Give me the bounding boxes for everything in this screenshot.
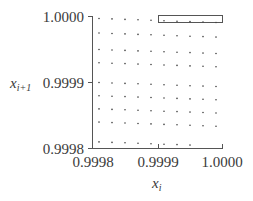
scatter-points: [98, 18, 217, 146]
scatter-point: [150, 110, 152, 112]
x-tick-label-left: 0.9998: [72, 154, 113, 170]
scatter-point: [215, 99, 217, 101]
x-tick-label-right: 1.0000: [201, 154, 242, 170]
scatter-point: [189, 144, 191, 146]
scatter-point: [176, 35, 178, 37]
scatter-point: [176, 20, 178, 22]
scatter-point: [111, 122, 113, 124]
scatter-point: [150, 123, 152, 125]
scatter-point: [111, 95, 113, 97]
scatter-point: [163, 84, 165, 86]
scatter-point: [163, 64, 165, 66]
scatter-point: [98, 141, 100, 143]
scatter-point: [215, 66, 217, 68]
scatter-point: [137, 50, 139, 52]
scatter-point: [124, 109, 126, 111]
scatter-point: [150, 34, 152, 36]
scatter-point: [124, 63, 126, 65]
scatter-point: [124, 50, 126, 52]
scatter-point: [150, 97, 152, 99]
y-axis-title: xi+1: [9, 75, 31, 93]
scatter-point: [98, 18, 100, 20]
scatter-point: [98, 62, 100, 64]
scatter-point: [98, 95, 100, 97]
scatter-point: [163, 97, 165, 99]
scatter-point: [202, 52, 204, 54]
scatter-point: [124, 33, 126, 35]
scatter-point: [176, 144, 178, 146]
scatter-point: [98, 49, 100, 51]
scatter-point: [150, 143, 152, 145]
scatter-point: [163, 143, 165, 145]
scatter-point: [98, 121, 100, 123]
scatter-point: [111, 82, 113, 84]
scatter-point: [176, 51, 178, 53]
scatter-point: [202, 125, 204, 127]
scatter-point: [163, 35, 165, 37]
scatter-point: [150, 64, 152, 66]
scatter-point: [163, 20, 165, 22]
scatter-point: [176, 84, 178, 86]
scatter-point: [189, 65, 191, 67]
scatter-point: [137, 96, 139, 98]
scatter-point: [189, 21, 191, 23]
scatter-point: [176, 98, 178, 100]
y-axis-title-sub: i+1: [17, 82, 32, 93]
scatter-point: [163, 124, 165, 126]
scatter-point: [98, 82, 100, 84]
scatter-point: [189, 85, 191, 87]
scatter-point: [202, 21, 204, 23]
scatter-point: [111, 62, 113, 64]
scatter-point: [163, 51, 165, 53]
y-tick-label-top: 1.0000: [43, 9, 84, 25]
scatter-point: [189, 52, 191, 54]
scatter-point: [163, 110, 165, 112]
scatter-point: [215, 125, 217, 127]
scatter-point: [124, 122, 126, 124]
scatter-point: [150, 84, 152, 86]
scatter-point: [137, 19, 139, 21]
scatter-point: [111, 18, 113, 20]
scatter-point: [202, 99, 204, 101]
scatter-point: [189, 125, 191, 127]
scatter-point: [189, 111, 191, 113]
scatter-point: [215, 53, 217, 55]
scatter-point: [189, 35, 191, 37]
scatter-point: [176, 65, 178, 67]
scatter-point: [124, 96, 126, 98]
scatter-point: [189, 98, 191, 100]
scatter-point: [137, 123, 139, 125]
lattice-scatter-chart: 1.0000 0.9999 0.9998 0.9998 0.9999 1.000…: [0, 0, 253, 201]
scatter-point: [137, 63, 139, 65]
y-tick-label-mid: 0.9999: [43, 75, 84, 91]
scatter-point: [150, 20, 152, 22]
scatter-point: [137, 83, 139, 85]
scatter-point: [215, 36, 217, 38]
scatter-point: [124, 142, 126, 144]
scatter-point: [98, 32, 100, 34]
scatter-point: [202, 66, 204, 68]
scatter-point: [202, 85, 204, 87]
scatter-point: [150, 51, 152, 53]
scatter-point: [124, 83, 126, 85]
scatter-point: [137, 34, 139, 36]
scatter-point: [137, 110, 139, 112]
scatter-point: [98, 108, 100, 110]
scatter-point: [111, 33, 113, 35]
x-axis-title-sub: i: [159, 182, 162, 193]
scatter-point: [111, 109, 113, 111]
scatter-point: [176, 111, 178, 113]
scatter-point: [111, 142, 113, 144]
scatter-point: [215, 86, 217, 88]
scatter-point: [215, 112, 217, 114]
scatter-point: [137, 143, 139, 145]
x-axis-title: xi: [151, 175, 162, 193]
x-tick-label-mid: 0.9999: [137, 154, 178, 170]
scatter-point: [215, 22, 217, 24]
scatter-point: [111, 49, 113, 51]
scatter-point: [124, 19, 126, 21]
scatter-point: [202, 36, 204, 38]
scatter-point: [202, 112, 204, 114]
scatter-point: [176, 124, 178, 126]
